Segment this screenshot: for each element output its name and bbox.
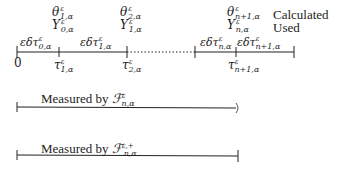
measure-bar-1-open-end [236, 103, 238, 113]
interval-label-n: εδτεn,α [200, 36, 232, 51]
y-label-2: Yε1,α [120, 19, 142, 34]
measure-label-2: Measured by ℱε,+n,α [41, 142, 137, 158]
interval-label-n-plus-1: εδτεn+1,α [237, 36, 280, 51]
interval-label-0: εδτε0,α [20, 36, 51, 51]
tick-label-tau-1: τε1,α [54, 59, 73, 74]
tick-label-tau-n-plus-1: τεn+1,α [228, 59, 259, 74]
interval-label-1: εδτε1,α [80, 36, 111, 51]
origin-label: 0 [14, 57, 22, 69]
y-label-3: Yεn,α [227, 19, 249, 34]
measure-label-1: Measured by ℱεn,α [41, 92, 135, 108]
y-label-1: Yε0,α [52, 19, 74, 34]
tick-label-tau-2: τε2,α [122, 59, 141, 74]
legend-used: Used [273, 21, 300, 34]
